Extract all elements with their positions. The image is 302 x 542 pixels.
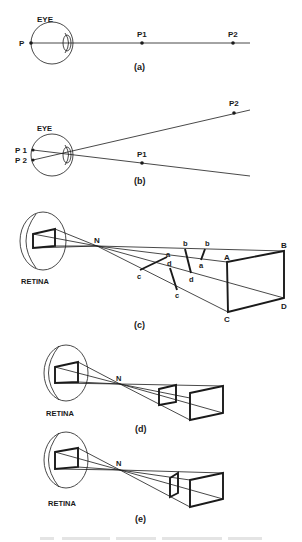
- eyeball-disc: [44, 432, 88, 488]
- ray: [33, 234, 97, 246]
- retina-label: RETINA: [46, 409, 75, 418]
- far-object: [190, 473, 223, 507]
- c-small-label: c: [137, 272, 141, 281]
- point-p1: [140, 161, 144, 165]
- point-p1: [140, 41, 144, 45]
- ray: [55, 229, 97, 246]
- caption-fragment: [40, 537, 54, 540]
- p1-label: P1: [137, 150, 147, 159]
- point-p2: [231, 41, 235, 45]
- object-abcd: [227, 251, 284, 312]
- eyeball-rim: [26, 214, 36, 268]
- d-small-label: d: [189, 275, 194, 284]
- p2-label: P2: [229, 99, 239, 108]
- retina-label: RETINA: [48, 499, 77, 508]
- d-label: D: [281, 302, 287, 311]
- c-label: C: [224, 315, 230, 324]
- edge-ba: [201, 249, 205, 260]
- ray: [78, 362, 120, 384]
- p1-label: P1: [137, 30, 147, 39]
- eyeball-disc: [20, 212, 66, 270]
- caption-fragment: [116, 537, 156, 540]
- a-small-label: a: [166, 250, 171, 259]
- edge-dc: [170, 268, 177, 290]
- b-label: B: [281, 241, 287, 250]
- edge-bd: [185, 249, 191, 273]
- ray-to-c: [97, 246, 228, 312]
- b-small-label: b: [205, 239, 210, 248]
- caption-c: (c): [134, 320, 145, 330]
- caption-fragment: [62, 537, 110, 540]
- d-small-label: d: [167, 259, 172, 268]
- n-label: N: [116, 459, 121, 468]
- eyeball: [31, 134, 73, 176]
- optics-figure: EYE P P1 P2 (a) EYE P 1 P 2 P1 P2 (b): [0, 0, 302, 542]
- b-small-label: b: [183, 239, 188, 248]
- retina-point-p2: [31, 158, 34, 161]
- retinal-image: [55, 448, 78, 469]
- caption-e: (e): [135, 514, 146, 524]
- ray: [78, 448, 120, 470]
- panel-d: RETINA N (d): [44, 345, 223, 434]
- caption-d: (d): [135, 424, 147, 434]
- ray: [120, 384, 190, 398]
- far-object: [190, 386, 223, 420]
- point-p2: [232, 111, 236, 115]
- n-label: N: [116, 374, 121, 383]
- p-label: P: [19, 39, 25, 48]
- caption-fragment: [228, 537, 262, 540]
- panel-e: RETINA N (e): [44, 432, 223, 524]
- a-small-label: a: [199, 261, 204, 270]
- p2-retina-label: P 2: [15, 156, 27, 165]
- caption-b: (b): [134, 176, 146, 186]
- eye-label: EYE: [37, 124, 52, 133]
- ray: [120, 470, 223, 499]
- retina-label: RETINA: [21, 277, 50, 286]
- caption-fragment: [162, 537, 222, 540]
- p2-label: P2: [228, 30, 238, 39]
- figure-caption-faint: [40, 537, 262, 540]
- panel-b: EYE P 1 P 2 P1 P2 (b): [15, 99, 250, 186]
- eye-label: EYE: [37, 15, 54, 24]
- panel-a: EYE P P1 P2 (a): [19, 15, 250, 72]
- p1-retina-label: P 1: [15, 146, 27, 155]
- ray: [120, 384, 190, 420]
- a-label: A: [224, 253, 230, 262]
- retinal-image: [33, 229, 55, 248]
- ray-to-b: [97, 246, 284, 251]
- c-small-label: c: [175, 291, 179, 300]
- eyeball-disc: [44, 345, 88, 401]
- ray: [120, 470, 190, 507]
- n-label: N: [94, 236, 100, 245]
- retina-point-p1: [31, 148, 34, 151]
- panel-c: RETINA N A B C D a a b b c c d d (c): [20, 212, 287, 330]
- caption-a: (a): [134, 62, 145, 72]
- point-p: [29, 41, 33, 45]
